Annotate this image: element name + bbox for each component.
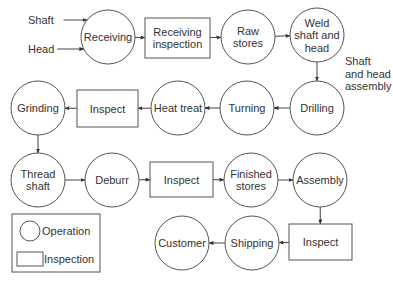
- node-inspect-3: Inspect: [289, 224, 352, 260]
- node-receiving-inspection: Receivinginspection: [145, 18, 210, 58]
- legend-operation-label: Operation: [42, 225, 90, 237]
- node-label: shaft and: [294, 29, 339, 41]
- node-inspect-1: Inspect: [77, 90, 138, 127]
- node-label: Turning: [229, 102, 266, 114]
- input-label: Head: [28, 43, 54, 55]
- node-label: shaft: [26, 180, 50, 192]
- node-drilling: Drilling: [290, 81, 344, 135]
- node-turning: Turning: [220, 81, 274, 135]
- node-deburr: Deburr: [85, 153, 139, 207]
- node-finished-stores: Finishedstores: [224, 153, 278, 207]
- node-label: Inspect: [164, 174, 199, 186]
- node-label: Inspect: [303, 236, 338, 248]
- legend-inspection-icon: [17, 252, 43, 266]
- legend-inspection-label: Inspection: [44, 253, 94, 265]
- node-label: Thread: [21, 168, 56, 180]
- node-label: Weld: [305, 17, 330, 29]
- node-label: inspection: [153, 38, 203, 50]
- node-label: stores: [233, 37, 263, 49]
- node-label: Deburr: [95, 174, 129, 186]
- node-label: Finished: [230, 168, 272, 180]
- node-heat-treat: Heat treat: [151, 81, 205, 135]
- legend: Operation Inspection: [12, 214, 100, 272]
- node-shipping: Shipping: [225, 216, 279, 270]
- node-label: Drilling: [300, 102, 334, 114]
- node-label: Inspect: [90, 103, 125, 115]
- node-label: Grinding: [17, 102, 59, 114]
- node-label: Receiving: [84, 31, 132, 43]
- edge-label-shaft-and-head-assembly: Shaftand headassembly: [345, 55, 392, 92]
- node-label: stores: [236, 180, 266, 192]
- node-label: Heat treat: [154, 102, 202, 114]
- node-weld-shaft-and-head: Weldshaft andhead: [290, 8, 344, 62]
- node-label: Shipping: [231, 237, 274, 249]
- node-grinding: Grinding: [11, 81, 65, 135]
- edge-label-text: Shaftand headassembly: [345, 55, 392, 92]
- input-shaft: Shaft: [28, 14, 54, 26]
- node-assembly: Assembly: [293, 153, 347, 207]
- input-head: Head: [28, 43, 54, 55]
- legend-operation-icon: [20, 221, 40, 241]
- node-label: Receiving: [153, 26, 201, 38]
- process-flow-diagram: ReceivingReceivinginspectionRawstoresWel…: [0, 0, 393, 282]
- inputs-layer: ShaftHead: [28, 14, 54, 55]
- node-label: Customer: [158, 237, 206, 249]
- node-customer: Customer: [155, 216, 209, 270]
- node-receiving: Receiving: [81, 10, 135, 64]
- node-label: head: [305, 42, 329, 54]
- node-label: Assembly: [296, 174, 344, 186]
- input-label: Shaft: [28, 14, 54, 26]
- node-inspect-2: Inspect: [150, 162, 213, 197]
- node-raw-stores: Rawstores: [221, 10, 275, 64]
- node-thread-shaft: Threadshaft: [11, 153, 65, 207]
- node-label: Raw: [237, 25, 259, 37]
